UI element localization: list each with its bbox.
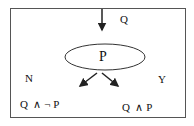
branch-no-arrow (80, 73, 97, 86)
branch-yes-arrow (102, 73, 118, 86)
branch-no-label: N (25, 73, 33, 84)
input-label: Q (120, 14, 128, 25)
branch-yes-label: Y (158, 74, 166, 85)
outcome-no-label: Q ∧ ¬ P (20, 99, 59, 110)
outcome-yes-label: Q ∧ P (122, 102, 152, 113)
node-label: P (99, 50, 107, 64)
